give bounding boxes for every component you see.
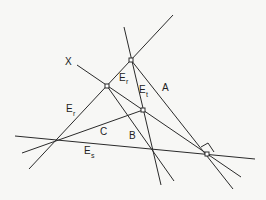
label-er-left-sub: r: [73, 110, 76, 117]
vertex-upper-left-marker: [105, 84, 109, 88]
label-er-left: E: [66, 103, 73, 114]
line-et: [124, 27, 161, 185]
line-a: [131, 60, 233, 189]
label-et: E: [139, 84, 146, 95]
vertex-center-marker: [141, 108, 145, 112]
label-er-top-sub: r: [126, 78, 129, 85]
label-es: E: [84, 145, 91, 156]
label-c: C: [100, 126, 107, 137]
label-et-sub: t: [146, 91, 148, 98]
vertex-top-marker: [129, 58, 133, 62]
label-a: A: [162, 82, 169, 93]
label-er-top: E: [119, 72, 126, 83]
label-b: B: [129, 130, 136, 141]
vertex-right-marker: [205, 152, 209, 156]
line-b: [107, 86, 174, 181]
label-x: X: [65, 56, 72, 67]
geometric-diagram: X E r E t A E r C B E s: [0, 0, 266, 200]
label-es-sub: s: [91, 152, 95, 159]
